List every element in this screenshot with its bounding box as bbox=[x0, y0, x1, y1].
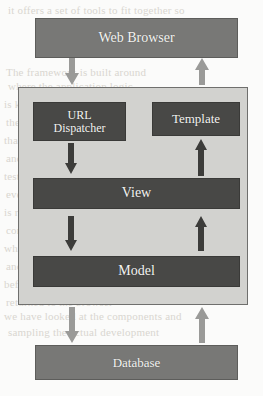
node-url-dispatcher-label-line1: URL bbox=[54, 109, 106, 122]
arrow-model-to-database-icon bbox=[64, 307, 80, 344]
node-web-browser-label: Web Browser bbox=[98, 31, 174, 46]
arrow-template-to-browser-icon bbox=[194, 58, 210, 86]
bleed-line: we have looked at the components and bbox=[4, 310, 182, 322]
node-model-label: Model bbox=[118, 264, 155, 279]
node-template-label: Template bbox=[172, 112, 220, 126]
arrow-browser-to-dispatcher-icon bbox=[64, 58, 80, 86]
node-view-label: View bbox=[122, 186, 151, 201]
node-url-dispatcher[interactable]: URL Dispatcher bbox=[33, 102, 126, 141]
node-template[interactable]: Template bbox=[152, 102, 240, 136]
arrow-model-to-view-icon bbox=[194, 216, 208, 252]
arrow-view-to-model-icon bbox=[64, 216, 78, 252]
node-url-dispatcher-label-line2: Dispatcher bbox=[54, 122, 106, 135]
django-architecture-diagram: it offers a set of tools to fit together… bbox=[0, 0, 263, 396]
node-model[interactable]: Model bbox=[33, 256, 240, 287]
node-web-browser[interactable]: Web Browser bbox=[35, 18, 238, 58]
arrow-database-to-model-icon bbox=[194, 307, 210, 344]
bleed-line: it offers a set of tools to fit together… bbox=[8, 4, 185, 16]
node-view[interactable]: View bbox=[33, 178, 240, 209]
arrow-view-to-template-icon bbox=[194, 139, 208, 177]
node-url-dispatcher-label: URL Dispatcher bbox=[54, 109, 106, 134]
node-database[interactable]: Database bbox=[35, 345, 238, 380]
node-database-label: Database bbox=[113, 356, 161, 370]
arrow-dispatcher-to-view-icon bbox=[64, 143, 78, 175]
bleed-line: sampling the actual development bbox=[8, 326, 159, 338]
